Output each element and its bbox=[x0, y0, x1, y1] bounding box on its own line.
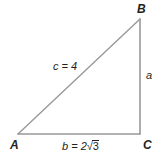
radicand: 3 bbox=[92, 140, 99, 152]
side-label-a: a bbox=[146, 70, 152, 81]
radical-group: √3 bbox=[87, 140, 100, 152]
side-label-c: c = 4 bbox=[53, 61, 77, 72]
right-triangle-figure: B A C a c = 4 b = 2√3 bbox=[0, 0, 161, 160]
hypotenuse-line bbox=[18, 19, 140, 134]
triangle-drawing bbox=[0, 0, 161, 160]
side-label-b: b = 2√3 bbox=[62, 140, 99, 152]
vertex-label-a: A bbox=[10, 139, 19, 151]
vertex-label-b: B bbox=[137, 3, 146, 15]
vertex-label-c: C bbox=[143, 139, 152, 151]
side-label-b-prefix: b = 2 bbox=[62, 140, 87, 152]
